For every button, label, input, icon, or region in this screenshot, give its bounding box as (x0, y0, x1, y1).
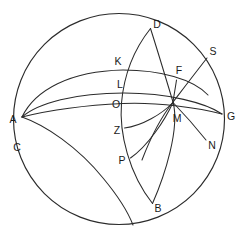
arc-meridian-D-K-L-O-Z-P-B (121, 29, 152, 204)
point-label-d: D (153, 18, 161, 30)
arc-Z-to-M (125, 103, 174, 129)
outer-sphere-circle (14, 14, 225, 225)
sphere-diagram: ABCDFGKLMNOPSZ (0, 0, 245, 238)
point-label-f: F (176, 64, 182, 76)
arc-horizon-A-O-M-G (22, 103, 222, 117)
point-label-s: S (209, 45, 216, 57)
point-label-o: O (112, 98, 120, 110)
point-label-p: P (118, 154, 125, 166)
point-label-b: B (154, 202, 161, 214)
point-label-m: M (173, 112, 182, 124)
curves-group (14, 14, 225, 226)
point-label-l: L (117, 78, 123, 90)
point-label-n: N (208, 139, 216, 151)
point-label-k: K (114, 55, 121, 67)
point-label-g: G (227, 110, 235, 122)
point-label-c: C (13, 141, 21, 153)
sphere-diagram-canvas: ABCDFGKLMNOPSZ (0, 0, 245, 238)
point-label-a: A (9, 113, 16, 125)
point-label-z: Z (114, 124, 121, 136)
